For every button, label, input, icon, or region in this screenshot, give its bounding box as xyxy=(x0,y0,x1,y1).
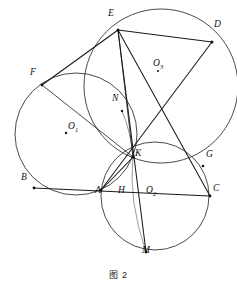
segment-F-E xyxy=(42,30,118,85)
label-circle-O3-sub: 3 xyxy=(160,63,163,70)
circle-O3 xyxy=(84,9,237,163)
label-point-E: E xyxy=(108,9,114,19)
label-point-F: F xyxy=(30,68,36,78)
label-point-K: K xyxy=(135,149,141,159)
geometry-canvas xyxy=(0,0,237,289)
label-point-C: C xyxy=(213,184,219,194)
circle-O1 xyxy=(15,73,137,195)
label-point-A: A xyxy=(95,186,101,196)
vertex-dot-F xyxy=(41,84,44,87)
label-point-D: D xyxy=(214,20,221,30)
geometry-figure: E D F N K G B A H C M O1 O2 O3 图 2 xyxy=(0,0,237,289)
label-point-G: G xyxy=(206,150,213,160)
vertex-dot-N xyxy=(121,110,123,112)
figure-caption: 图 2 xyxy=(0,268,237,281)
label-circle-O1-sub: 1 xyxy=(75,126,78,133)
segments-group xyxy=(34,30,212,252)
label-point-M: M xyxy=(142,246,150,256)
segment-E-D xyxy=(118,30,212,42)
vertex-dot-G xyxy=(202,165,205,168)
label-circle-O1: O1 xyxy=(68,122,78,133)
vertex-dot-C xyxy=(209,195,212,198)
vertex-dot-E xyxy=(117,29,120,32)
label-point-N: N xyxy=(112,94,118,104)
segment-F-K xyxy=(42,85,133,157)
vertex-dot-B xyxy=(33,187,36,190)
vertex-dot-D xyxy=(211,41,214,44)
label-circle-O3-letter: O xyxy=(153,58,160,68)
vertex-dots-group xyxy=(33,29,214,254)
label-circle-O2-letter: O xyxy=(146,185,153,195)
label-circle-O2: O2 xyxy=(146,186,156,197)
label-circle-O1-letter: O xyxy=(68,121,75,131)
label-point-B: B xyxy=(21,173,27,183)
label-point-H: H xyxy=(118,186,125,196)
label-circle-O3: O3 xyxy=(153,59,163,70)
center-dot-O1 xyxy=(65,132,67,134)
label-circle-O2-sub: 2 xyxy=(153,190,156,197)
